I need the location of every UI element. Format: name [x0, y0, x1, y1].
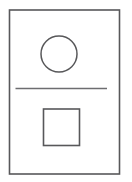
diagram-svg	[0, 0, 132, 182]
canvas-background	[0, 0, 132, 182]
diagram-canvas	[0, 0, 132, 182]
